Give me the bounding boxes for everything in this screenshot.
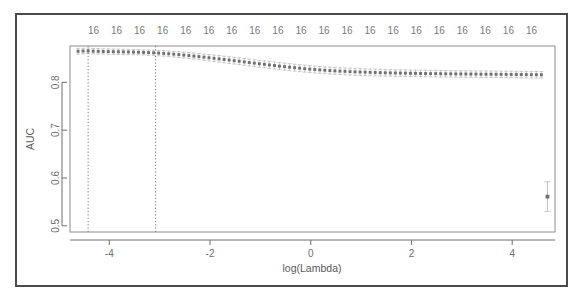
- data-point: [122, 50, 125, 53]
- data-point: [112, 50, 115, 53]
- data-point: [132, 51, 135, 54]
- data-point: [107, 50, 110, 53]
- top-axis-label: 16: [111, 25, 123, 36]
- data-point: [449, 72, 452, 75]
- top-axis-nonzero-coefficients: 1616161616161616161616161616161616161616: [88, 25, 538, 36]
- data-point: [464, 73, 467, 76]
- data-point: [137, 51, 140, 54]
- top-axis-label: 16: [480, 25, 492, 36]
- data-point: [525, 73, 528, 76]
- data-point: [434, 72, 437, 75]
- data-point: [349, 70, 352, 73]
- data-point: [313, 68, 316, 71]
- data-point: [404, 72, 407, 75]
- data-point: [152, 51, 155, 54]
- data-point: [469, 73, 472, 76]
- data-point: [92, 50, 95, 53]
- data-point: [263, 63, 266, 66]
- x-axis-tick-label: -4: [105, 248, 114, 259]
- top-axis-label: 16: [203, 25, 215, 36]
- data-point: [197, 55, 200, 58]
- data-point: [298, 67, 301, 70]
- data-point: [268, 63, 271, 66]
- data-point: [127, 51, 130, 54]
- data-point: [540, 73, 543, 76]
- top-axis-label: 16: [88, 25, 100, 36]
- data-point: [399, 72, 402, 75]
- data-point: [223, 58, 226, 61]
- data-point: [505, 73, 508, 76]
- data-point: [162, 52, 165, 55]
- data-point: [344, 70, 347, 73]
- data-point: [389, 71, 392, 74]
- data-point: [379, 71, 382, 74]
- y-axis: 0.50.60.70.8: [50, 75, 67, 233]
- data-point: [485, 73, 488, 76]
- data-point: [419, 72, 422, 75]
- data-point: [530, 73, 533, 76]
- data-point: [510, 73, 513, 76]
- data-point: [82, 50, 85, 53]
- top-axis-label: 16: [272, 25, 284, 36]
- data-point: [535, 73, 538, 76]
- data-point: [303, 67, 306, 70]
- data-point: [187, 54, 190, 57]
- data-point: [77, 50, 80, 53]
- data-point: [157, 52, 160, 55]
- data-point: [258, 62, 261, 65]
- data-point-layer: [77, 49, 550, 198]
- data-point: [500, 73, 503, 76]
- data-point: [354, 70, 357, 73]
- data-point: [117, 50, 120, 53]
- data-point: [283, 65, 286, 68]
- top-axis-label: 16: [180, 25, 192, 36]
- data-point: [102, 50, 105, 53]
- data-point: [333, 69, 336, 72]
- data-point: [369, 71, 372, 74]
- y-axis-tick-label: 0.5: [50, 218, 61, 232]
- data-point: [474, 73, 477, 76]
- data-point: [203, 56, 206, 59]
- data-point: [429, 72, 432, 75]
- top-axis-label: 16: [249, 25, 261, 36]
- data-point: [318, 68, 321, 71]
- data-point: [218, 57, 221, 60]
- data-point: [480, 73, 483, 76]
- data-point: [359, 71, 362, 74]
- y-axis-tick-label: 0.8: [50, 75, 61, 89]
- top-axis-label: 16: [134, 25, 146, 36]
- top-axis-label: 16: [365, 25, 377, 36]
- data-point: [278, 65, 281, 68]
- y-axis-tick-label: 0.7: [50, 123, 61, 137]
- data-point: [409, 72, 412, 75]
- y-axis-tick-label: 0.6: [50, 171, 61, 185]
- top-axis-label: 16: [503, 25, 515, 36]
- top-axis-label: 16: [388, 25, 400, 36]
- top-axis-label: 16: [434, 25, 446, 36]
- x-axis-tick-label: 0: [308, 248, 314, 259]
- top-axis-label: 16: [342, 25, 354, 36]
- data-point: [253, 62, 256, 65]
- x-axis-tick-label: 2: [409, 248, 415, 259]
- data-point: [338, 70, 341, 73]
- data-point: [374, 71, 377, 74]
- data-point: [288, 66, 291, 69]
- data-point: [439, 72, 442, 75]
- data-point: [384, 71, 387, 74]
- data-point: [147, 51, 150, 54]
- top-axis-label: 16: [157, 25, 169, 36]
- vertical-reference-line-layer: [88, 46, 155, 232]
- data-point: [546, 195, 550, 199]
- data-point: [208, 56, 211, 59]
- data-point: [273, 64, 276, 67]
- top-axis-label: 16: [226, 25, 238, 36]
- data-point: [424, 72, 427, 75]
- data-point: [142, 51, 145, 54]
- data-point: [192, 55, 195, 58]
- data-point: [228, 59, 231, 62]
- data-point: [293, 66, 296, 69]
- data-point: [364, 71, 367, 74]
- data-point: [515, 73, 518, 76]
- data-point: [495, 73, 498, 76]
- data-point: [182, 54, 185, 57]
